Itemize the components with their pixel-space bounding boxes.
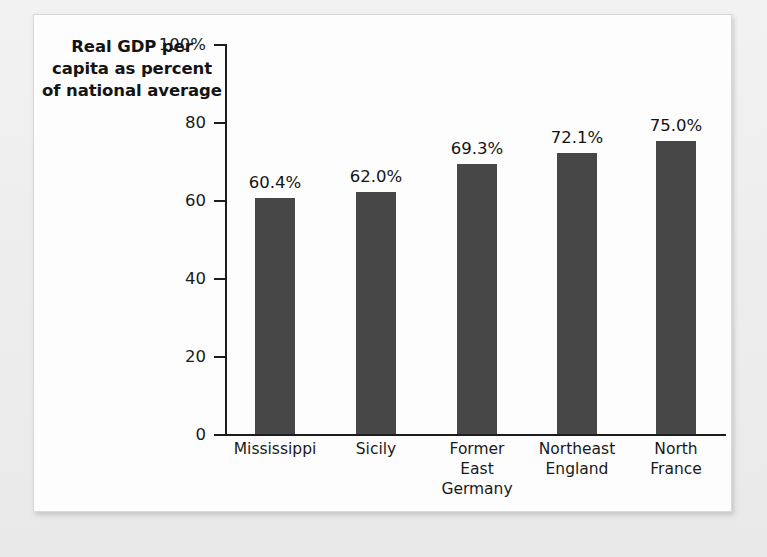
- category-label-former-east-germany-line-3: Germany: [412, 480, 542, 500]
- bar-northeast-england: [557, 153, 597, 434]
- y-tick-0: [214, 434, 225, 436]
- bar-mississippi: [255, 198, 295, 434]
- bar-value-mississippi: 60.4%: [220, 173, 330, 192]
- category-label-north-france-line-2: France: [611, 460, 741, 480]
- category-label-north-france: North France: [611, 440, 741, 480]
- bar-north-france: [656, 141, 696, 434]
- y-tick-label-100: 100%: [132, 35, 206, 54]
- y-tick-label-0: 0: [132, 425, 206, 444]
- y-tick-40: [214, 278, 225, 280]
- y-tick-label-20: 20: [132, 347, 206, 366]
- axis-title-line-2: capita as percent: [39, 58, 225, 80]
- bar-chart: Real GDP per capita as percent of nation…: [34, 15, 731, 511]
- bar-sicily: [356, 192, 396, 434]
- bar-former-east-germany: [457, 164, 497, 434]
- bar-value-sicily: 62.0%: [321, 167, 431, 186]
- bar-value-north-france: 75.0%: [621, 116, 731, 135]
- y-tick-60: [214, 200, 225, 202]
- y-tick-label-40: 40: [132, 269, 206, 288]
- y-tick-20: [214, 356, 225, 358]
- y-tick-label-60: 60: [132, 191, 206, 210]
- figure-card: Real GDP per capita as percent of nation…: [33, 14, 732, 512]
- category-label-north-france-line-1: North: [611, 440, 741, 460]
- y-axis-line: [225, 44, 227, 436]
- y-tick-label-80: 80: [132, 113, 206, 132]
- y-tick-80: [214, 122, 225, 124]
- axis-title-line-3: of national average: [39, 80, 225, 102]
- y-tick-100: [214, 44, 225, 46]
- bar-value-former-east-germany: 69.3%: [422, 139, 532, 158]
- x-axis-line: [225, 434, 726, 436]
- bar-value-northeast-england: 72.1%: [522, 128, 632, 147]
